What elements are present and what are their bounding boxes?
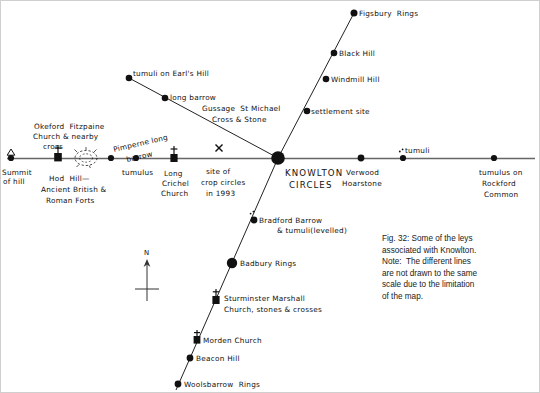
caption-line-3: Note: The different lines: [382, 256, 534, 268]
marker-earls-hill-tumuli[interactable]: [126, 75, 133, 82]
label-woolsbarrow-rings: Woolsbarrow Rings: [184, 380, 260, 389]
label-rockford-line3: Common: [484, 190, 518, 199]
marker-beacon-hill[interactable]: [187, 355, 194, 362]
label-knowlton-line1: KNOWLTON: [285, 168, 343, 178]
label-figsbury-rings: Figsbury Rings: [359, 9, 418, 18]
label-verwood-line2: Hoarstone: [342, 179, 382, 188]
north-arrow: [135, 259, 159, 301]
label-long-crichel-line3: Church: [161, 189, 188, 198]
marker-morden-church[interactable]: [194, 330, 201, 344]
label-windmill-hill: Windmill Hill: [331, 75, 380, 84]
marker-tumulus-west[interactable]: [133, 155, 139, 161]
ley-line-northeast: [278, 13, 354, 158]
label-settlement-site: settlement site: [311, 107, 370, 116]
label-earls-hill-tumuli: tumuli on Earl's Hill: [133, 69, 209, 78]
label-summit-of-hill-line2: of hill: [3, 177, 25, 186]
marker-windmill-hill[interactable]: [323, 76, 330, 83]
caption-line-2: associated with Knowlton.: [382, 245, 534, 257]
caption-line-1: Fig. 32: Some of the leys: [382, 233, 534, 245]
label-okeford-line3: cross: [43, 142, 63, 151]
label-rockford-line1: tumulus on: [479, 168, 523, 177]
label-tumuli-east: tumuli: [405, 146, 430, 155]
label-crop-circles-line2: crop circles: [201, 178, 245, 187]
label-long-crichel-line2: Crichel: [162, 179, 189, 188]
marker-settlement-site[interactable]: [304, 108, 311, 115]
label-okeford-line1: Okeford Fitzpaine: [34, 122, 105, 131]
label-pimperne-line2: barrow: [125, 149, 153, 164]
label-verwood-line1: Verwood: [346, 168, 379, 177]
label-crop-circles-line3: in 1993: [206, 189, 235, 198]
label-sturminster-line2: Church, stones & crosses: [224, 305, 322, 314]
marker-crop-circles-site[interactable]: [216, 145, 223, 152]
label-summit-of-hill-line1: Summit: [2, 168, 32, 177]
caption-line-4: are not drawn to the same: [382, 268, 534, 280]
ley-map-svg: Summit of hill Okeford Fitzpaine Church …: [1, 1, 540, 393]
label-bradford-barrow-line1: Bradford Barrow: [259, 216, 322, 225]
label-crop-circles-line1: site of: [206, 167, 230, 176]
marker-long-crichel-church[interactable]: [170, 146, 177, 162]
marker-rockford-common-tumulus[interactable]: [491, 155, 497, 161]
label-rockford-line2: Rockford: [482, 179, 516, 188]
label-bradford-barrow-line2: & tumuli(levelled): [277, 226, 347, 235]
marker-sturminster-marshall-church[interactable]: [212, 289, 219, 304]
marker-knowlton-circles[interactable]: [271, 151, 285, 165]
marker-woolsbarrow-rings[interactable]: [175, 381, 182, 388]
label-hod-hill-line2: Ancient British &: [41, 185, 107, 194]
marker-black-hill[interactable]: [331, 50, 338, 57]
caption-line-6: of the map.: [382, 291, 534, 303]
label-morden-church: Morden Church: [203, 336, 262, 345]
marker-long-barrow-northwest[interactable]: [162, 95, 169, 102]
label-gussage-line1: Gussage St Michael: [202, 104, 281, 113]
label-tumulus-west: tumulus: [122, 168, 153, 177]
label-north: N: [144, 249, 149, 257]
caption-line-5: scale due to the limitation: [382, 279, 534, 291]
label-long-crichel-line1: Long: [164, 169, 183, 178]
label-sturminster-line1: Sturminster Marshall: [224, 294, 305, 303]
label-okeford-line2: Church & nearby: [33, 132, 99, 141]
label-black-hill: Black Hill: [339, 49, 375, 58]
label-knowlton-line2: CIRCLES: [289, 180, 332, 190]
marker-verwood-hoarstone[interactable]: [358, 155, 365, 162]
label-long-barrow-northwest: long barrow: [170, 93, 216, 102]
marker-summit-of-hill[interactable]: [7, 149, 15, 161]
label-hod-hill-line3: Roman Forts: [46, 196, 95, 205]
marker-figsbury-rings[interactable]: [351, 10, 358, 17]
marker-pimperne-long-barrow[interactable]: [108, 155, 114, 161]
label-gussage-line2: Cross & Stone: [212, 115, 267, 124]
marker-hod-hill-fort[interactable]: [75, 147, 98, 168]
marker-badbury-rings[interactable]: [227, 258, 237, 268]
label-hod-hill-line1: Hod Hill—: [49, 174, 90, 183]
label-beacon-hill: Beacon Hill: [196, 354, 240, 363]
ley-line-figure: Summit of hill Okeford Fitzpaine Church …: [0, 0, 540, 393]
label-badbury-rings: Badbury Rings: [240, 259, 296, 268]
figure-caption: Fig. 32: Some of the leys associated wit…: [382, 233, 534, 303]
